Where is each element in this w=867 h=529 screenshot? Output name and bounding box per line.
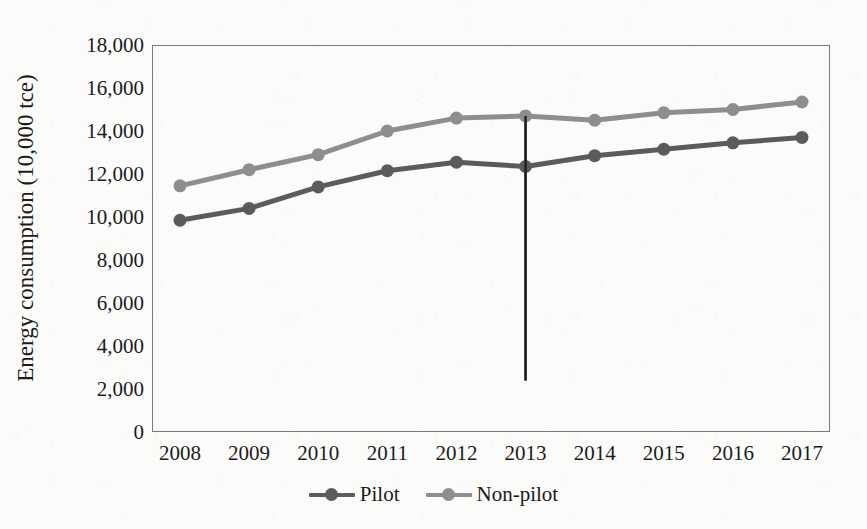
data-point-marker bbox=[450, 112, 463, 125]
data-point-marker bbox=[312, 148, 325, 161]
plot-series-layer bbox=[152, 45, 830, 432]
x-axis-tick-label: 2015 bbox=[643, 441, 685, 466]
y-axis-tick-label: 16,000 bbox=[50, 76, 144, 101]
x-axis-tick-label: 2014 bbox=[574, 441, 616, 466]
x-axis-tick-label: 2012 bbox=[435, 441, 477, 466]
y-axis-tick-label: 8,000 bbox=[50, 248, 144, 273]
x-axis-tick-label: 2008 bbox=[159, 441, 201, 466]
legend-item-pilot[interactable]: Pilot bbox=[309, 482, 400, 507]
x-axis-tick-label: 2010 bbox=[297, 441, 339, 466]
y-axis-tick-label: 6,000 bbox=[50, 291, 144, 316]
x-axis-tick-label: 2011 bbox=[367, 441, 408, 466]
legend-marker-icon bbox=[309, 487, 355, 503]
chart-figure: Energy consumption (10,000 tce) 02,0004,… bbox=[0, 0, 867, 529]
y-axis-tick-label: 14,000 bbox=[50, 119, 144, 144]
data-point-marker bbox=[381, 164, 394, 177]
y-axis-tick-label: 12,000 bbox=[50, 162, 144, 187]
data-point-marker bbox=[174, 179, 187, 192]
data-point-marker bbox=[450, 156, 463, 169]
x-axis-tick-labels: 2008200920102011201220132014201520162017 bbox=[0, 441, 867, 471]
y-axis-tick-label: 2,000 bbox=[50, 377, 144, 402]
y-axis-title: Energy consumption (10,000 tce) bbox=[6, 28, 46, 428]
data-point-marker bbox=[796, 95, 809, 108]
data-point-marker bbox=[312, 180, 325, 193]
data-point-marker bbox=[726, 136, 739, 149]
data-point-marker bbox=[726, 103, 739, 116]
y-axis-title-label: Energy consumption (10,000 tce) bbox=[13, 74, 39, 381]
data-point-marker bbox=[174, 214, 187, 227]
data-point-marker bbox=[657, 143, 670, 156]
y-axis-tick-label: 10,000 bbox=[50, 205, 144, 230]
data-point-marker bbox=[588, 149, 601, 162]
series-pilot bbox=[174, 131, 809, 227]
series-line bbox=[180, 137, 802, 220]
legend-marker-icon bbox=[426, 487, 472, 503]
data-point-marker bbox=[243, 202, 256, 215]
x-axis-tick-label: 2017 bbox=[781, 441, 823, 466]
data-point-marker bbox=[588, 114, 601, 127]
x-axis-tick-label: 2016 bbox=[712, 441, 754, 466]
y-axis-tick-label: 4,000 bbox=[50, 334, 144, 359]
legend-item-label: Pilot bbox=[360, 482, 400, 507]
legend-item-label: Non-pilot bbox=[477, 482, 559, 507]
x-axis-tick-label: 2009 bbox=[228, 441, 270, 466]
chart-legend: PilotNon-pilot bbox=[0, 482, 867, 507]
legend-item-non-pilot[interactable]: Non-pilot bbox=[426, 482, 559, 507]
y-axis-tick-label: 18,000 bbox=[50, 33, 144, 58]
data-point-marker bbox=[657, 106, 670, 119]
data-point-marker bbox=[381, 125, 394, 138]
data-point-marker bbox=[796, 131, 809, 144]
data-point-marker bbox=[243, 163, 256, 176]
x-axis-tick-label: 2013 bbox=[505, 441, 547, 466]
